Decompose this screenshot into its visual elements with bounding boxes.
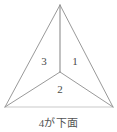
face-label-1: 1 <box>72 55 78 67</box>
fold-line-to-bottom-right <box>60 72 113 107</box>
figure-container: 1 2 3 4が下面 <box>0 0 117 132</box>
triangle-left-edge <box>5 5 60 107</box>
face-label-2: 2 <box>57 83 63 95</box>
face-label-3: 3 <box>41 55 47 67</box>
figure-caption: 4が下面 <box>0 114 117 130</box>
tetrahedron-net-diagram: 1 2 3 <box>0 0 117 115</box>
triangle-right-edge <box>60 5 113 107</box>
fold-line-to-bottom-left <box>5 72 60 107</box>
